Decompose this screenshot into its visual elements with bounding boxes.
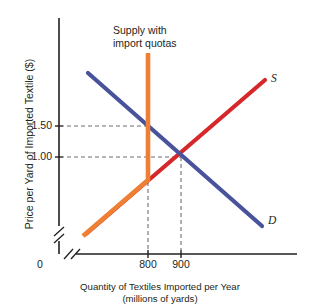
- demand-curve: [88, 73, 262, 226]
- x-axis-title-line2: (millions of yards): [40, 293, 280, 305]
- y-axis-title: Price per Yard of Imported Textile ($): [23, 49, 35, 239]
- x-axis-title: Quantity of Textiles Imported per Year (…: [40, 281, 280, 304]
- x-tick-label-800: 800: [131, 258, 165, 270]
- quota-supply-curve: [83, 53, 148, 236]
- y-tick-label-150: 1.50: [18, 119, 52, 131]
- demand-curve-label: D: [268, 214, 276, 226]
- supply-curve-label: S: [271, 72, 277, 84]
- x-axis-title-line1: Quantity of Textiles Imported per Year: [40, 281, 280, 293]
- origin-label: 0: [37, 258, 43, 270]
- x-tick-label-900: 900: [164, 258, 198, 270]
- annotation-supply-with-import-quotas: Supply with import quotas: [113, 24, 177, 49]
- annotation-line1: Supply with: [113, 24, 177, 37]
- supply-demand-quota-chart: Price per Yard of Imported Textile ($) Q…: [0, 0, 309, 306]
- y-tick-label-100: 1.00: [18, 150, 52, 162]
- annotation-line2: import quotas: [113, 37, 177, 50]
